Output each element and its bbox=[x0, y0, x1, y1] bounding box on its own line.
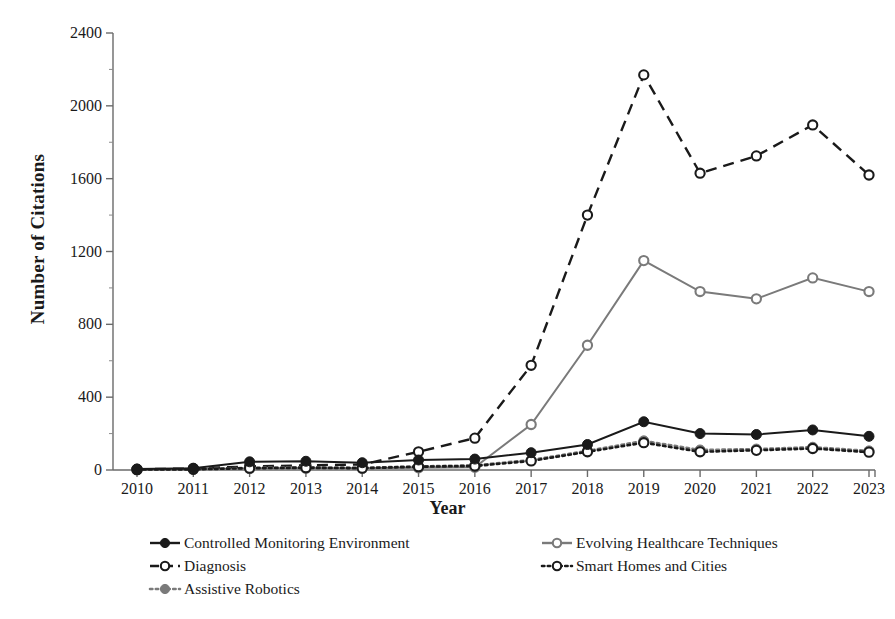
data-point bbox=[695, 447, 704, 456]
data-point bbox=[752, 446, 761, 455]
data-point bbox=[752, 151, 761, 160]
legend-item[interactable]: Diagnosis bbox=[148, 554, 410, 577]
data-point bbox=[245, 457, 255, 467]
legend-item[interactable]: Assistive Robotics bbox=[148, 577, 410, 600]
data-point bbox=[751, 429, 761, 439]
data-point bbox=[808, 120, 817, 129]
data-point bbox=[752, 294, 761, 303]
legend-marker-icon bbox=[148, 557, 182, 575]
data-point bbox=[583, 341, 592, 350]
citations-line-chart: Number of Citations Year 040080012001600… bbox=[0, 0, 895, 619]
data-point bbox=[527, 420, 536, 429]
legend-marker-icon bbox=[148, 580, 182, 598]
data-point bbox=[864, 287, 873, 296]
legend-item[interactable]: Smart Homes and Cities bbox=[540, 554, 778, 577]
legend-column-left: Controlled Monitoring EnvironmentDiagnos… bbox=[148, 531, 410, 600]
data-point bbox=[527, 361, 536, 370]
legend-item[interactable]: Evolving Healthcare Techniques bbox=[540, 531, 778, 554]
data-point bbox=[132, 464, 142, 474]
series-diagnosis bbox=[132, 70, 873, 474]
data-point bbox=[864, 170, 873, 179]
legend-marker-icon bbox=[148, 534, 182, 552]
legend-item-label: Evolving Healthcare Techniques bbox=[576, 534, 778, 552]
data-point bbox=[470, 454, 480, 464]
legend-item[interactable]: Controlled Monitoring Environment bbox=[148, 531, 410, 554]
data-point bbox=[301, 456, 311, 466]
data-point bbox=[808, 425, 818, 435]
legend-marker-icon bbox=[540, 557, 574, 575]
data-point bbox=[695, 169, 704, 178]
data-point bbox=[639, 70, 648, 79]
data-point bbox=[639, 438, 648, 447]
data-point bbox=[864, 448, 873, 457]
data-point bbox=[695, 429, 705, 439]
data-point bbox=[583, 210, 592, 219]
data-point bbox=[808, 444, 817, 453]
data-point bbox=[639, 417, 649, 427]
data-point bbox=[188, 463, 198, 473]
data-point bbox=[470, 434, 479, 443]
data-point bbox=[526, 448, 536, 458]
data-point bbox=[414, 455, 424, 465]
legend-item-label: Diagnosis bbox=[184, 557, 246, 575]
data-point bbox=[864, 431, 874, 441]
legend-marker-icon bbox=[540, 534, 574, 552]
series-evolving-healthcare-techniques bbox=[132, 256, 873, 474]
plot-area bbox=[0, 0, 895, 619]
data-point bbox=[695, 287, 704, 296]
legend-item-label: Assistive Robotics bbox=[184, 580, 300, 598]
data-point bbox=[582, 440, 592, 450]
legend-item-label: Controlled Monitoring Environment bbox=[184, 534, 410, 552]
data-point bbox=[639, 256, 648, 265]
series-line bbox=[137, 75, 869, 469]
legend-column-right: Evolving Healthcare TechniquesSmart Home… bbox=[540, 531, 778, 577]
legend-item-label: Smart Homes and Cities bbox=[576, 557, 727, 575]
data-point bbox=[357, 458, 367, 468]
data-point bbox=[808, 273, 817, 282]
